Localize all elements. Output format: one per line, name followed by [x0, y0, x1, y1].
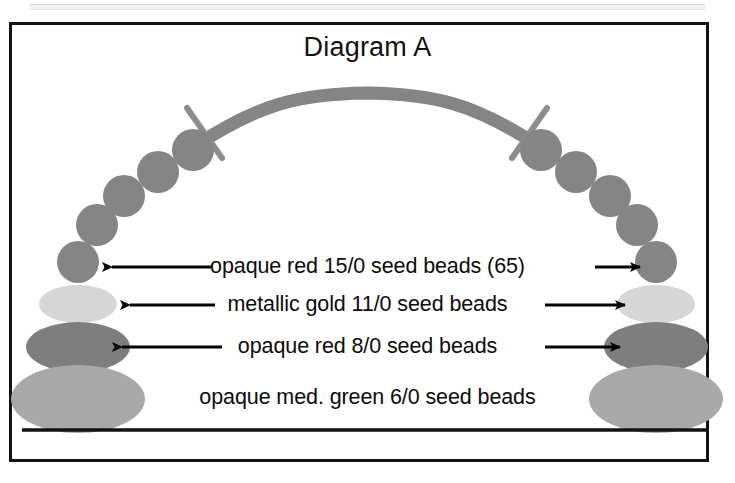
- label-red-15-0: opaque red 15/0 seed beads (65): [0, 254, 735, 279]
- bead-arch-strand: [192, 93, 542, 148]
- diagram-canvas: [0, 0, 735, 483]
- label-red-8-0: opaque red 8/0 seed beads: [0, 334, 735, 359]
- label-gold-11-0: metallic gold 11/0 seed beads: [0, 292, 735, 317]
- figure-page: Diagram A: [0, 0, 735, 483]
- label-green-6-0: opaque med. green 6/0 seed beads: [0, 385, 735, 410]
